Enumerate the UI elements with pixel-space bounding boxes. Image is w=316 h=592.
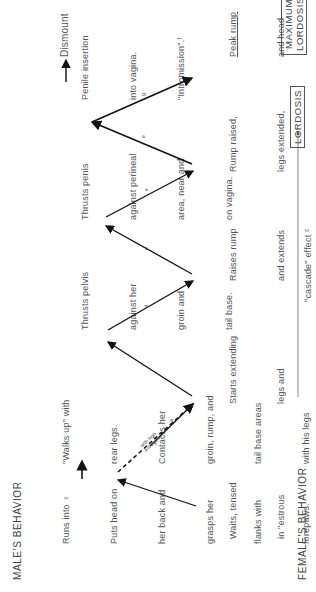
arrow-icon (108, 281, 193, 330)
diagram-canvas: MALE'S BEHAVIOR FEMALE'S BEHAVIOR Runs i… (0, 0, 316, 592)
arrows-layer (0, 0, 316, 592)
arrow-label-e2: e (143, 188, 149, 191)
arrow-icon (108, 342, 192, 396)
arrow-label-a: a (168, 419, 174, 422)
arrow-icon (92, 122, 192, 164)
arrow-label-g: g (140, 93, 146, 96)
arrow-label-e1: e (143, 247, 149, 250)
arrow-icon (118, 480, 196, 506)
arrow-icon (92, 78, 192, 122)
arrow-label-e3: e (140, 135, 146, 138)
arrow-label-d: d (143, 305, 149, 308)
arrow-icon (106, 226, 192, 274)
arrow-icon (106, 171, 193, 217)
